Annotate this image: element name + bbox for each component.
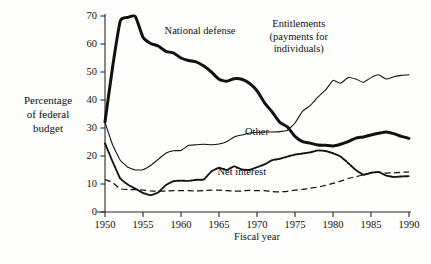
- axes-group: 0102030405060701950195519601965197019751…: [24, 10, 420, 242]
- x-tick-label: 1980: [323, 219, 344, 230]
- x-tick-label: 1960: [171, 219, 192, 230]
- x-tick-label: 1955: [133, 219, 154, 230]
- chart-container: 0102030405060701950195519601965197019751…: [0, 0, 431, 264]
- series-label-entitlements: (payments for: [269, 31, 328, 43]
- y-axis-title-line: Percentage: [24, 94, 72, 106]
- y-tick-label: 50: [87, 66, 98, 77]
- y-tick-label: 60: [87, 38, 98, 49]
- y-tick-label: 10: [87, 178, 98, 189]
- y-axis-title-line: of federal: [27, 108, 69, 120]
- x-tick-label: 1970: [247, 219, 268, 230]
- x-tick-label: 1990: [399, 219, 420, 230]
- y-tick-label: 30: [87, 122, 98, 133]
- series-label-net-interest: Net interest: [217, 166, 266, 177]
- x-axis-title: Fiscal year: [234, 231, 280, 242]
- y-tick-label: 70: [87, 10, 98, 21]
- chart-plot: 0102030405060701950195519601965197019751…: [0, 0, 431, 264]
- x-tick-label: 1985: [361, 219, 382, 230]
- series-label-national-defense: National defense: [165, 25, 236, 36]
- series-label-entitlements: individuals): [274, 43, 325, 55]
- y-tick-label: 0: [92, 206, 97, 217]
- series-label-entitlements: Entitlements: [272, 18, 325, 29]
- y-axis-title-line: budget: [33, 122, 63, 134]
- x-tick-label: 1965: [209, 219, 230, 230]
- y-tick-label: 20: [87, 150, 98, 161]
- series-label-other: Other: [245, 126, 269, 137]
- x-tick-label: 1975: [285, 219, 306, 230]
- x-tick-label: 1950: [95, 219, 116, 230]
- y-tick-label: 40: [87, 94, 98, 105]
